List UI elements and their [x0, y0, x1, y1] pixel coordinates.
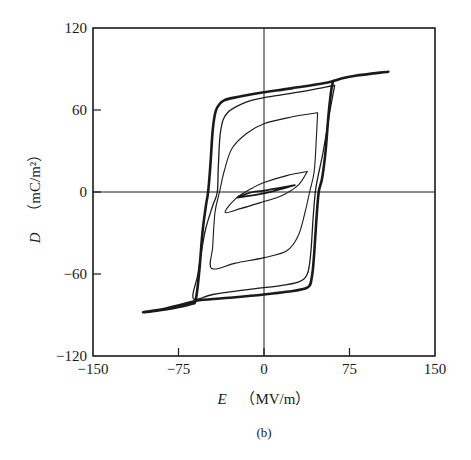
x-tick-label: 0: [260, 361, 268, 377]
x-axis-label: E （MV/m）: [217, 391, 311, 407]
subfigure-caption: (b): [256, 425, 271, 440]
hysteresis-chart: −150−75075150−120−60060120 E （MV/m） D （m…: [0, 0, 471, 460]
y-tick-label: 60: [72, 102, 87, 118]
y-axis-unit: （mC/m²）: [27, 147, 43, 219]
y-tick-label: 0: [80, 184, 88, 200]
x-tick-label: 150: [424, 361, 447, 377]
y-axis-variable: D: [27, 232, 43, 244]
x-axis-unit: （MV/m）: [240, 391, 310, 407]
x-tick-label: 75: [342, 361, 357, 377]
axes-layer: −150−75075150−120−60060120: [56, 20, 446, 377]
y-tick-label: −60: [64, 266, 87, 282]
y-tick-label: −120: [56, 348, 87, 364]
x-tick-label: −75: [167, 361, 190, 377]
x-axis-variable: E: [217, 391, 227, 407]
y-axis-label: D （mC/m²）: [27, 147, 43, 245]
y-tick-label: 120: [65, 20, 88, 36]
